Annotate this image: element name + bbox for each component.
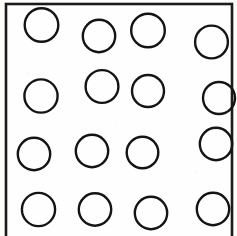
drawing-canvas: [0, 0, 237, 236]
technical-drawing: [0, 0, 237, 236]
